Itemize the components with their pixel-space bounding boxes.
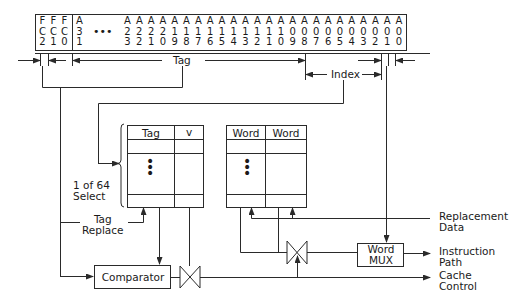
address-bit-column: A19 bbox=[169, 16, 180, 48]
word-mux-label-line: MUX bbox=[358, 255, 404, 266]
address-bit-label: 1 bbox=[382, 37, 393, 48]
address-bit-label: 3 bbox=[240, 37, 251, 48]
address-bit-label: 8 bbox=[181, 37, 192, 48]
address-bit-label: 0 bbox=[157, 37, 168, 48]
select-label: 1 of 64 Select bbox=[73, 180, 110, 202]
address-bit-label: A bbox=[264, 16, 275, 27]
address-bit-label: A bbox=[275, 16, 286, 27]
address-bit-label: 2 bbox=[252, 37, 263, 48]
address-bit-label: 9 bbox=[287, 37, 298, 48]
tag-array-ellipsis-icon: ••• bbox=[146, 158, 155, 176]
address-bit-column: A 3 1 bbox=[74, 16, 85, 48]
address-bit-label: A bbox=[228, 16, 239, 27]
valid-column-header: v bbox=[175, 126, 203, 138]
address-bit-label: A bbox=[358, 16, 369, 27]
address-bit-column: A07 bbox=[311, 16, 322, 48]
address-bit-column: A09 bbox=[287, 16, 298, 48]
address-bit-label: A bbox=[122, 16, 133, 27]
fc-bit-label: F bbox=[37, 16, 48, 27]
word-column-header-2: Word bbox=[266, 127, 306, 139]
address-bit-column: A05 bbox=[334, 16, 345, 48]
address-bit-column: A12 bbox=[252, 16, 263, 48]
address-bit-column: A16 bbox=[205, 16, 216, 48]
address-bit-column: A06 bbox=[323, 16, 334, 48]
instruction-path-label: Instruction Path bbox=[439, 246, 495, 268]
address-bit-label: 4 bbox=[346, 37, 357, 48]
index-field-label: Index bbox=[329, 69, 362, 80]
address-bit-label: 7 bbox=[193, 37, 204, 48]
address-bit-column: A04 bbox=[346, 16, 357, 48]
address-bit-label: A bbox=[346, 16, 357, 27]
replacement-data-label: Replacement Data bbox=[439, 211, 508, 233]
address-bit-label: A bbox=[193, 16, 204, 27]
address-bit-label: A bbox=[205, 16, 216, 27]
address-bit-column: A14 bbox=[228, 16, 239, 48]
address-bit-label: 8 bbox=[299, 37, 310, 48]
address-bit-label: A bbox=[146, 16, 157, 27]
address-bit-column: A13 bbox=[240, 16, 251, 48]
tag-field-label: Tag bbox=[170, 55, 194, 66]
address-bit-label: A bbox=[370, 16, 381, 27]
address-bit-label: A bbox=[157, 16, 168, 27]
address-bit-label: A bbox=[287, 16, 298, 27]
address-bit-label: A bbox=[252, 16, 263, 27]
address-bit-label: 4 bbox=[228, 37, 239, 48]
address-bit-label: 2 bbox=[370, 37, 381, 48]
cache-control-label: Cache Control bbox=[439, 270, 477, 292]
word-mux-label: Word MUX bbox=[358, 244, 404, 266]
address-bit-label: 1 bbox=[74, 37, 85, 48]
fc-bit-label: F bbox=[59, 16, 70, 27]
data-array-ellipsis-icon: ••• bbox=[243, 158, 252, 176]
address-bit-label: 6 bbox=[323, 37, 334, 48]
replacement-data-label-line: Data bbox=[439, 222, 508, 233]
address-bit-label: A bbox=[240, 16, 251, 27]
address-bit-label: A bbox=[74, 16, 85, 27]
tag-replace-label: Tag Replace bbox=[82, 214, 124, 236]
address-bit-label: 5 bbox=[334, 37, 345, 48]
address-bit-label: A bbox=[334, 16, 345, 27]
address-bit-label: 0 bbox=[275, 37, 286, 48]
select-label-line: Select bbox=[73, 191, 110, 202]
address-bit-column: A08 bbox=[299, 16, 310, 48]
fc-bit-column: F C 0 bbox=[59, 16, 70, 48]
address-bit-column: A15 bbox=[216, 16, 227, 48]
address-bit-label: 5 bbox=[216, 37, 227, 48]
address-bit-column: A10 bbox=[275, 16, 286, 48]
address-bit-label: 1 bbox=[146, 37, 157, 48]
address-bit-label: A bbox=[216, 16, 227, 27]
comparator-gate bbox=[180, 266, 200, 288]
address-bit-column: A18 bbox=[181, 16, 192, 48]
address-bit-label: A bbox=[382, 16, 393, 27]
address-bit-column: A00 bbox=[393, 16, 404, 48]
address-bit-label: 1 bbox=[264, 37, 275, 48]
address-bit-label: A bbox=[323, 16, 334, 27]
address-bit-label: A bbox=[311, 16, 322, 27]
instruction-path-label-line: Path bbox=[439, 257, 495, 268]
address-bit-label: A bbox=[299, 16, 310, 27]
register-ellipsis: ••• bbox=[93, 25, 112, 38]
address-bit-label: 2 bbox=[134, 37, 145, 48]
tag-replace-label-line: Replace bbox=[82, 225, 124, 236]
word-column-header-1: Word bbox=[227, 127, 265, 139]
address-bit-column: A02 bbox=[370, 16, 381, 48]
address-bit-label: 6 bbox=[205, 37, 216, 48]
address-bit-label: 9 bbox=[169, 37, 180, 48]
cache-control-label-line: Control bbox=[439, 281, 477, 292]
address-bit-label: A bbox=[181, 16, 192, 27]
address-bit-column: A01 bbox=[382, 16, 393, 48]
address-bit-column: A23 bbox=[122, 16, 133, 48]
fc-bit-label: 1 bbox=[48, 37, 59, 48]
address-bit-label: 0 bbox=[393, 37, 404, 48]
address-bit-column: A11 bbox=[264, 16, 275, 48]
fc-bit-column: F C 1 bbox=[48, 16, 59, 48]
address-bit-label: 3 bbox=[358, 37, 369, 48]
address-bit-label: A bbox=[169, 16, 180, 27]
address-bit-column: A20 bbox=[157, 16, 168, 48]
address-bit-column: A22 bbox=[134, 16, 145, 48]
address-bit-column: A03 bbox=[358, 16, 369, 48]
address-bit-label: A bbox=[393, 16, 404, 27]
fc-bit-label: F bbox=[48, 16, 59, 27]
fc-bit-column: F C 2 bbox=[37, 16, 48, 48]
address-bit-column: A21 bbox=[146, 16, 157, 48]
address-bit-column: A17 bbox=[193, 16, 204, 48]
